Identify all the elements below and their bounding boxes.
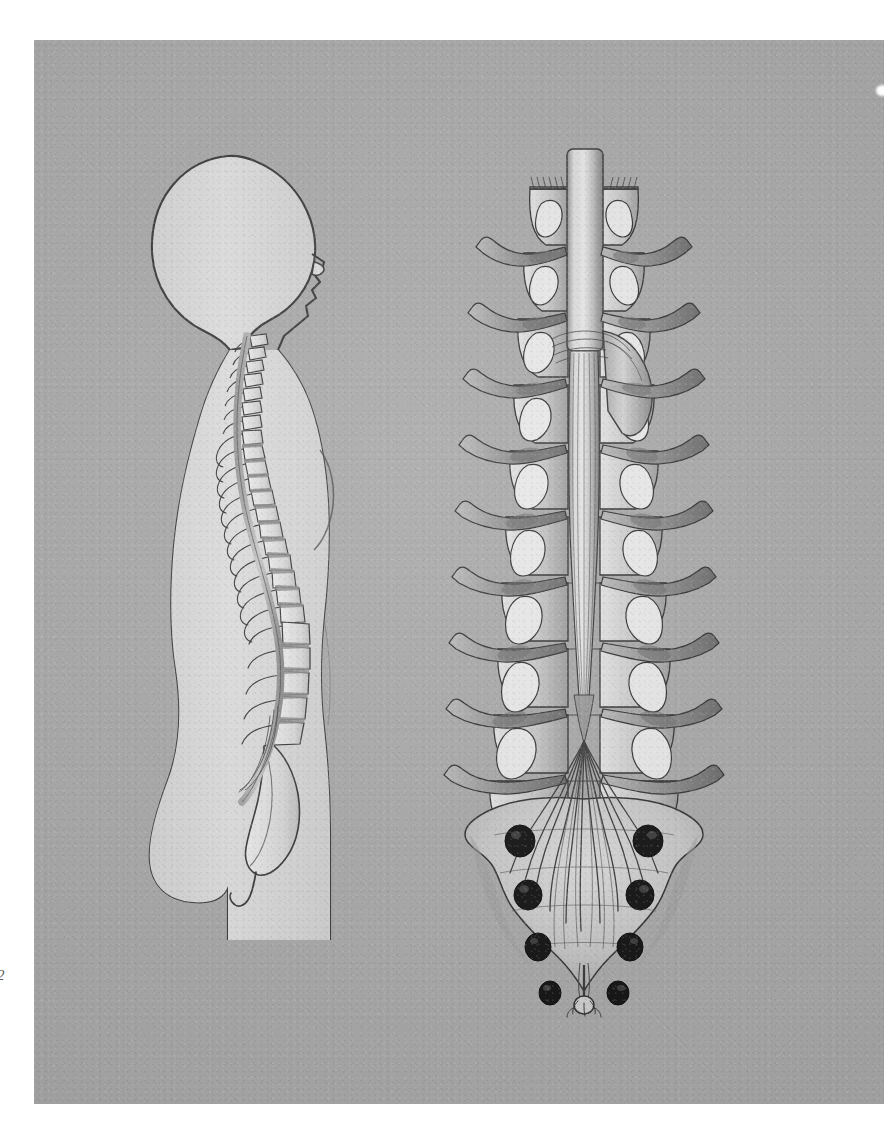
page-canvas: 2	[0, 0, 896, 1146]
printed-plate	[34, 40, 884, 1104]
sacrum	[465, 798, 703, 992]
figure-posterior-spinal-cord	[434, 135, 734, 1025]
figure-sagittal-silhouette	[124, 150, 424, 940]
page-folio: 2	[0, 962, 23, 988]
posterior-svg	[434, 135, 734, 1025]
plate-edge-notch	[876, 85, 884, 96]
sagittal-svg	[124, 150, 424, 940]
body-silhouette	[150, 156, 334, 940]
